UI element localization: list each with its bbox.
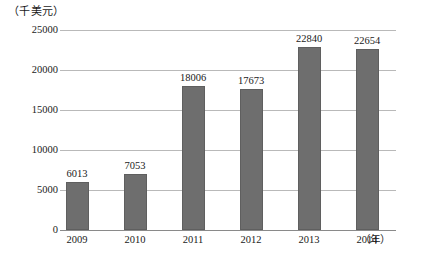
- bar: [66, 182, 89, 230]
- bar: [356, 49, 379, 230]
- bar-value-label: 22840: [279, 33, 339, 44]
- y-axis-tick-label: 5000: [0, 185, 58, 196]
- y-axis-tick-label: 20000: [0, 65, 58, 76]
- x-axis-line: [60, 230, 396, 231]
- gridline: [60, 150, 396, 151]
- y-axis-tick-label: 25000: [0, 25, 58, 36]
- x-axis-tick-label: 2009: [47, 234, 107, 246]
- gridline: [60, 110, 396, 111]
- bar-value-label: 22654: [337, 35, 397, 46]
- bar-chart: （千美元） 0500010000150002000025000601320097…: [0, 0, 424, 264]
- bar-value-label: 17673: [221, 75, 281, 86]
- x-axis-tick-label: 2013: [279, 234, 339, 246]
- bar: [182, 86, 205, 230]
- y-axis-tick-label: 10000: [0, 145, 58, 156]
- gridline: [60, 70, 396, 71]
- y-axis-tick-label: 15000: [0, 105, 58, 116]
- bar-value-label: 18006: [163, 72, 223, 83]
- bar: [124, 174, 147, 230]
- plot-area: 0500010000150002000025000601320097053201…: [0, 0, 424, 264]
- bar: [240, 89, 263, 230]
- gridline: [60, 190, 396, 191]
- x-axis-unit-caption: （年）: [360, 234, 390, 246]
- x-axis-tick-label: 2011: [163, 234, 223, 246]
- x-axis-tick-label: 2010: [105, 234, 165, 246]
- x-axis-tick-label: 2012: [221, 234, 281, 246]
- bar-value-label: 7053: [105, 160, 165, 171]
- gridline: [60, 30, 396, 31]
- bar: [298, 47, 321, 230]
- bar-value-label: 6013: [47, 168, 107, 179]
